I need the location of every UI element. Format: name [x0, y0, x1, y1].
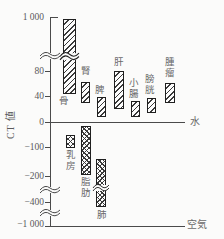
label-breast: 乳房 — [65, 150, 76, 171]
tick-neg400 — [45, 202, 50, 203]
label-liver: 肝 — [113, 57, 124, 68]
label-fat: 脂肪 — [80, 177, 91, 198]
label-tumor: 腫瘤 — [164, 57, 175, 78]
bone-bar-break-icon — [60, 51, 79, 62]
bar-tumor — [165, 83, 175, 103]
air-reference-line — [45, 226, 185, 227]
bar-spleen — [97, 97, 106, 117]
tick-label-1000: 1 000 — [2, 11, 44, 23]
bar-small-intestine — [131, 101, 140, 117]
tick-label-neg200: −200 — [2, 170, 44, 182]
tick-label-neg1000: −1 000 — [2, 218, 44, 230]
axis-break-upper-icon — [40, 51, 60, 61]
bar-kidney — [81, 82, 90, 103]
label-kidney: 腎 — [80, 66, 91, 77]
label-small-intestine: 小腸 — [128, 78, 139, 99]
lung-bar-break-icon — [93, 183, 109, 193]
bar-fat — [81, 126, 91, 175]
axis-break-middle-icon — [40, 185, 60, 195]
bar-bladder — [147, 98, 156, 113]
air-label: 空気 — [187, 219, 207, 231]
bar-liver — [114, 71, 124, 109]
y-axis-top-tick — [50, 17, 58, 18]
tick-neg100 — [45, 147, 50, 148]
tick-80 — [45, 71, 50, 72]
tick-label-40: 40 — [2, 90, 44, 102]
label-bladder: 膀胱 — [144, 74, 155, 95]
ct-value-chart: CT 値 1 000 80 40 0 −100 −200 −400 −1 000… — [0, 0, 224, 239]
label-bone: 骨 — [58, 96, 69, 107]
tick-label-neg100: −100 — [2, 141, 44, 153]
tick-label-80: 80 — [2, 65, 44, 77]
water-label: 水 — [190, 116, 200, 128]
axis-break-lower-icon — [40, 208, 60, 218]
water-reference-line — [45, 122, 185, 123]
label-spleen: 脾 — [94, 85, 105, 96]
tick-label-neg400: −400 — [2, 196, 44, 208]
tick-neg200 — [45, 176, 50, 177]
label-lung: 肺 — [96, 210, 107, 221]
tick-label-0: 0 — [2, 116, 44, 128]
tick-40 — [45, 96, 50, 97]
bar-breast — [66, 135, 75, 148]
